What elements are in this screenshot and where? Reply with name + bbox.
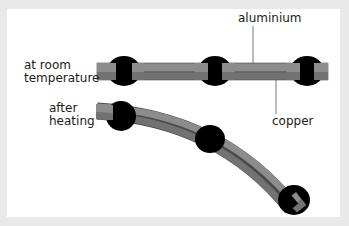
clamp-icon xyxy=(96,101,136,131)
clamp-icon xyxy=(278,185,310,215)
room-temperature-label-line1: at room xyxy=(24,58,71,72)
bimetallic-strip-diagram: aluminium copper at room temperature aft… xyxy=(0,0,349,226)
room-temperature-label-line2: temperature xyxy=(24,71,99,85)
aluminium-label: aluminium xyxy=(238,11,302,25)
clamp-icon xyxy=(195,125,225,153)
after-heating-label-line1: after xyxy=(49,101,77,115)
clamp-icon xyxy=(97,56,144,86)
after-heating-label-line2: heating xyxy=(49,114,95,128)
clamp-icon xyxy=(195,56,235,86)
copper-label: copper xyxy=(272,114,314,128)
clamp-icon xyxy=(287,56,328,86)
